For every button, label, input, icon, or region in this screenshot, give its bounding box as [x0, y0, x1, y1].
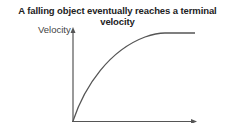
x-axis-arrow-icon — [191, 119, 197, 123]
velocity-curve — [73, 33, 195, 121]
y-axis — [71, 27, 76, 122]
velocity-graph — [0, 0, 235, 123]
y-axis-arrow-icon — [71, 27, 76, 33]
x-axis — [72, 119, 197, 123]
